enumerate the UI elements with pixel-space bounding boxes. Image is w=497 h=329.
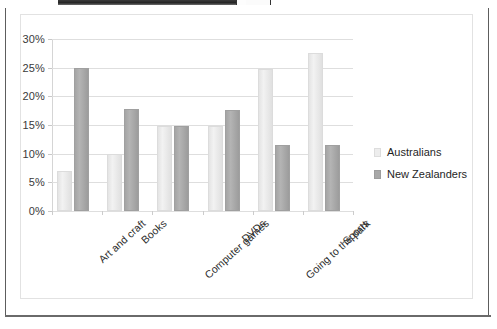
legend-label-australians: Australians [387, 146, 441, 158]
bar-new-zealanders-art-and-craft [74, 68, 89, 211]
legend-item-australians: Australians [374, 141, 467, 163]
bar-new-zealanders-sports [325, 145, 340, 211]
y-axis-tick-label: 25% [22, 62, 52, 74]
bar-australians-going-to-the-park [258, 69, 273, 211]
y-axis-tick-label: 10% [22, 148, 52, 160]
x-axis-tick-mark [353, 211, 354, 215]
legend-item-new-zealanders: New Zealanders [374, 163, 467, 185]
x-axis-tick-mark [203, 211, 204, 215]
y-axis-tick-label: 15% [22, 119, 52, 131]
y-axis-tick-label: 0% [29, 205, 52, 217]
bar-new-zealanders-going-to-the-park [275, 145, 290, 212]
bar-australians-dvds [208, 126, 223, 211]
bar-australians-sports [308, 53, 323, 211]
y-axis-tick-label: 5% [29, 176, 52, 188]
bars-group [52, 39, 353, 211]
chart-legend: Australians New Zealanders [374, 141, 467, 185]
x-axis-category-label: Sports [340, 217, 371, 247]
legend-swatch-australians [374, 148, 381, 157]
y-axis-tick-label: 20% [22, 90, 52, 102]
bar-australians-computer-games [157, 126, 172, 211]
x-axis-tick-mark [102, 211, 103, 215]
bar-new-zealanders-computer-games [174, 126, 189, 211]
plot-area: 0%5%10%15%20%25%30% [52, 39, 353, 211]
legend-label-new-zealanders: New Zealanders [387, 168, 467, 180]
x-axis-tick-mark [303, 211, 304, 215]
bar-australians-books [107, 154, 122, 211]
x-axis-category-label: Art and craft [96, 217, 148, 265]
bar-new-zealanders-dvds [225, 110, 240, 211]
x-axis-tick-mark [253, 211, 254, 215]
bar-new-zealanders-books [124, 109, 139, 211]
legend-swatch-new-zealanders [374, 170, 381, 179]
x-axis-tick-mark [152, 211, 153, 215]
bar-australians-art-and-craft [57, 171, 72, 211]
y-axis-tick-label: 30% [22, 33, 52, 45]
x-axis-tick-mark [52, 211, 53, 215]
